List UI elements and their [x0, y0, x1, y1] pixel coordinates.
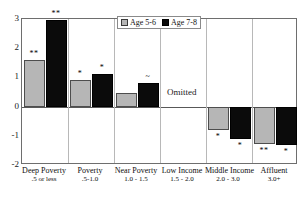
- y-axis-tick-label: 3: [3, 14, 19, 23]
- bar: [92, 74, 113, 106]
- category-divider: [206, 19, 207, 163]
- y-axis-tick-label: 1: [3, 72, 19, 81]
- bar: [24, 60, 45, 107]
- significance-marker: ~: [146, 73, 151, 81]
- significance-marker: **: [30, 50, 39, 58]
- bar: [116, 93, 137, 106]
- legend-item-age-5-6: Age 5-6: [121, 19, 156, 27]
- significance-marker: *: [100, 64, 105, 72]
- category-divider: [114, 19, 115, 163]
- bar: [70, 80, 91, 106]
- x-axis-category-range: .5-1.0: [67, 175, 113, 184]
- x-axis-category-name: Low Income: [159, 166, 205, 175]
- x-axis-category-label: Affluent3.0+: [251, 166, 297, 184]
- category-divider: [160, 19, 161, 163]
- significance-marker: **: [52, 10, 61, 18]
- bar-chart: 3210-1-2 ******~***** Omitted Age 5-6 Ag…: [0, 0, 303, 197]
- bar: [254, 107, 275, 144]
- y-axis-tick-label: 0: [3, 101, 19, 110]
- x-axis-category-name: Poverty: [67, 166, 113, 175]
- legend-item-age-7-8: Age 7-8: [162, 19, 197, 27]
- x-axis-category-range: 1.5 - 2.0: [159, 175, 205, 184]
- significance-marker: **: [260, 147, 269, 155]
- significance-marker: *: [238, 142, 243, 150]
- x-axis-category-label: Poverty.5-1.0: [67, 166, 113, 184]
- significance-marker: *: [216, 133, 221, 141]
- legend-label-age-5-6: Age 5-6: [130, 19, 156, 27]
- x-axis-category-label: Deep Poverty.5 or less: [21, 166, 67, 184]
- x-axis-category-range: 1.0 - 1.5: [113, 175, 159, 184]
- y-axis-tick-label: 2: [3, 43, 19, 52]
- y-axis-tick-label: -2: [3, 160, 19, 169]
- x-axis-category-label: Middle Income2.0 - 3.0: [205, 166, 251, 184]
- chart-legend: Age 5-6 Age 7-8: [117, 16, 201, 29]
- x-axis-category-name: Near Poverty: [113, 166, 159, 175]
- legend-label-age-7-8: Age 7-8: [171, 19, 197, 27]
- omitted-label: Omitted: [167, 88, 197, 97]
- x-axis-category-name: Affluent: [251, 166, 297, 175]
- bar: [46, 20, 67, 106]
- significance-marker: *: [284, 148, 289, 156]
- bar: [208, 107, 229, 130]
- x-axis-category-range: 3.0+: [251, 175, 297, 184]
- x-axis-category-range: .5 or less: [21, 175, 67, 184]
- bar: [230, 107, 251, 139]
- bar: [276, 107, 297, 145]
- x-axis-category-name: Deep Poverty: [21, 166, 67, 175]
- y-axis-tick-label: -1: [3, 130, 19, 139]
- plot-area: ******~***** Omitted: [21, 18, 297, 164]
- x-axis-category-name: Middle Income: [205, 166, 251, 175]
- x-axis-category-label: Low Income1.5 - 2.0: [159, 166, 205, 184]
- bar: [138, 83, 159, 107]
- legend-swatch-icon-age-7-8: [162, 19, 169, 26]
- significance-marker: *: [78, 70, 83, 78]
- x-axis: Deep Poverty.5 or lessPoverty.5-1.0Near …: [21, 166, 297, 196]
- legend-swatch-icon-age-5-6: [121, 19, 128, 26]
- x-axis-category-label: Near Poverty1.0 - 1.5: [113, 166, 159, 184]
- y-axis: 3210-1-2: [0, 0, 19, 197]
- x-axis-category-range: 2.0 - 3.0: [205, 175, 251, 184]
